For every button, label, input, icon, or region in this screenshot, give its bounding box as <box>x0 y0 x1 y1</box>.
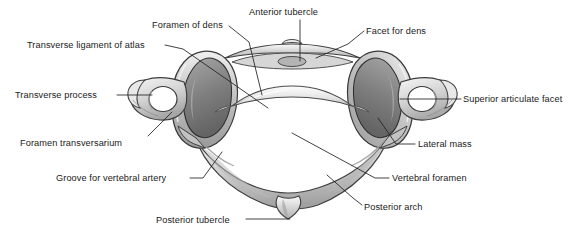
label-lateral-mass: Lateral mass <box>418 139 472 150</box>
groove-vertebral-artery <box>200 140 385 166</box>
label-transverse-ligament-of-atlas: Transverse ligament of atlas <box>27 40 145 51</box>
label-facet-for-dens: Facet for dens <box>366 26 426 37</box>
left-transverse-process <box>128 78 187 120</box>
label-superior-articulate-facet: Superior articulate facet <box>463 94 562 105</box>
anterior-tubercle <box>282 40 302 45</box>
label-groove-for-vertebral-artery: Groove for vertebral artery <box>56 173 166 184</box>
atlas-vertebra-illustration <box>0 0 580 235</box>
left-foramen-transversarium <box>149 87 177 112</box>
label-posterior-tubercle: Posterior tubercle <box>156 215 230 226</box>
label-posterior-arch: Posterior arch <box>364 202 422 213</box>
label-foramen-of-dens: Foramen of dens <box>152 20 223 31</box>
posterior-tubercle <box>276 196 301 219</box>
anatomy-figure: Foramen of densAnterior tubercleFacet fo… <box>0 0 580 235</box>
transverse-ligament <box>215 86 369 112</box>
label-vertebral-foramen: Vertebral foramen <box>392 173 467 184</box>
label-transverse-process: Transverse process <box>15 90 97 101</box>
label-foramen-transversarium: Foramen transversarium <box>20 138 122 149</box>
label-anterior-tubercle: Anterior tubercle <box>249 7 318 18</box>
